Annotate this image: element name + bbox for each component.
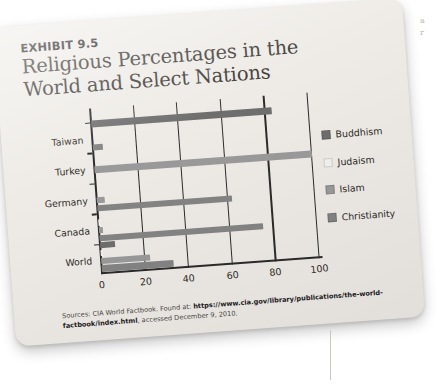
legend-label-judaism: Judaism xyxy=(337,153,375,167)
bar-world-judaism xyxy=(100,250,102,256)
legend-item-buddhism: Buddhism xyxy=(321,123,412,141)
page-rule-line xyxy=(330,330,331,380)
bar-germany-islam xyxy=(97,197,105,204)
x-tick-label-80: 80 xyxy=(269,266,282,278)
legend-label-christianity: Christianity xyxy=(341,207,395,222)
legend-item-christianity: Christianity xyxy=(327,205,418,223)
x-tick-label-100: 100 xyxy=(310,262,329,275)
gridline-20 xyxy=(133,105,146,271)
category-label-turkey: Turkey xyxy=(55,165,86,178)
bar-canada-islam xyxy=(99,227,104,233)
bar-canada-christianity xyxy=(99,223,263,241)
chart-plot-area: TaiwanTurkeyGermanyCanadaWorld 020406080… xyxy=(90,107,319,275)
bar-taiwan-buddhism xyxy=(91,108,272,127)
gridline-60 xyxy=(219,99,232,265)
legend-item-islam: Islam xyxy=(325,178,416,196)
bar-turkey-islam xyxy=(94,151,311,173)
x-tick-label-60: 60 xyxy=(226,269,239,281)
category-label-world: World xyxy=(65,256,93,269)
x-tick-label-0: 0 xyxy=(98,279,105,291)
bar-germany-christianity xyxy=(97,195,232,211)
legend-swatch-islam xyxy=(325,185,335,195)
category-label-taiwan: Taiwan xyxy=(51,134,84,147)
x-tick-label-20: 20 xyxy=(139,275,152,287)
gridline-40 xyxy=(176,102,189,268)
chart-figure: TaiwanTurkeyGermanyCanadaWorld 020406080… xyxy=(20,95,403,307)
bar-canada-judaism xyxy=(98,219,101,225)
legend-swatch-judaism xyxy=(323,157,333,167)
bar-taiwan-christianity xyxy=(93,144,103,151)
legend-label-buddhism: Buddhism xyxy=(335,125,383,139)
edge-mark-a: a xyxy=(420,16,425,25)
chart-legend: BuddhismJudaismIslamChristianity xyxy=(321,123,419,239)
gridline-80 xyxy=(263,96,276,262)
legend-swatch-christianity xyxy=(327,212,337,222)
edge-mark-b: r xyxy=(420,28,424,37)
screenshot-scene: EXHIBIT 9.5 Religious Percentages in the… xyxy=(0,0,446,384)
x-tick-label-40: 40 xyxy=(182,272,195,284)
legend-label-islam: Islam xyxy=(339,182,365,195)
exhibit-page-card: EXHIBIT 9.5 Religious Percentages in the… xyxy=(0,0,425,347)
legend-item-judaism: Judaism xyxy=(323,151,414,169)
bar-world-buddhism xyxy=(100,241,115,248)
chart-bars xyxy=(90,107,307,123)
category-label-germany: Germany xyxy=(44,195,88,209)
gridline-100 xyxy=(306,93,319,259)
category-label-canada: Canada xyxy=(54,225,90,239)
exhibit-page-inner: EXHIBIT 9.5 Religious Percentages in the… xyxy=(0,0,425,347)
source-url-part2: index.html xyxy=(97,317,137,328)
legend-swatch-buddhism xyxy=(321,130,331,140)
